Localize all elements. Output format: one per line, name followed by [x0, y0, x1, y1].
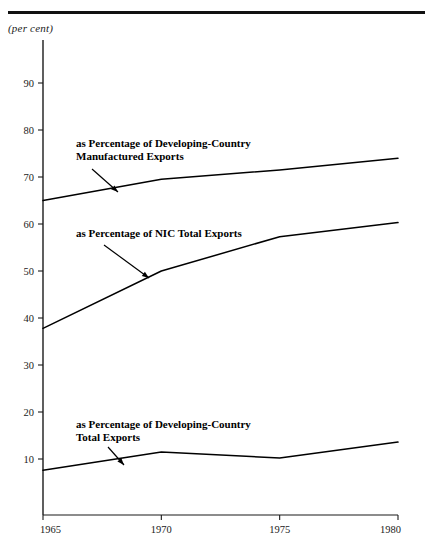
annotation-label: Manufactured Exports [76, 150, 184, 162]
y-tick-label: 10 [24, 454, 35, 465]
y-axis-ticks: 102030405060708090 [24, 78, 44, 465]
annotation-leader-line [104, 245, 149, 278]
y-tick-label: 50 [24, 266, 35, 277]
x-tick-label: 1970 [151, 524, 172, 535]
annot-nic-total-exports: as Percentage of NIC Total Exports [76, 227, 242, 278]
line-chart: 102030405060708090 1965197019751980 as P… [0, 0, 433, 551]
series-line-2 [43, 442, 398, 470]
y-tick-label: 30 [24, 360, 35, 371]
x-tick-label: 1975 [269, 524, 290, 535]
annot-developing-total-exports: as Percentage of Developing-CountryTotal… [76, 418, 251, 465]
x-tick-label: 1980 [380, 524, 401, 535]
x-axis-ticks: 1965197019751980 [40, 515, 401, 535]
chart-annotations-group: as Percentage of Developing-CountryManuf… [76, 137, 251, 465]
annot-manufactured-exports: as Percentage of Developing-CountryManuf… [76, 137, 251, 192]
annotation-label: as Percentage of NIC Total Exports [76, 227, 242, 239]
figure-container: (per cent) 102030405060708090 1965197019… [0, 0, 433, 551]
series-line-0 [43, 158, 398, 200]
annotation-label: as Percentage of Developing-Country [76, 418, 251, 430]
chart-axes [43, 40, 398, 515]
y-tick-label: 70 [24, 172, 35, 183]
y-tick-label: 90 [24, 78, 35, 89]
y-tick-label: 20 [24, 407, 35, 418]
x-tick-label: 1965 [40, 524, 61, 535]
y-tick-label: 80 [24, 125, 35, 136]
y-tick-label: 40 [24, 313, 35, 324]
annotation-arrowhead [142, 272, 149, 278]
y-tick-label: 60 [24, 219, 35, 230]
annotation-label: as Percentage of Developing-Country [76, 137, 251, 149]
annotation-label: Total Exports [76, 431, 141, 443]
